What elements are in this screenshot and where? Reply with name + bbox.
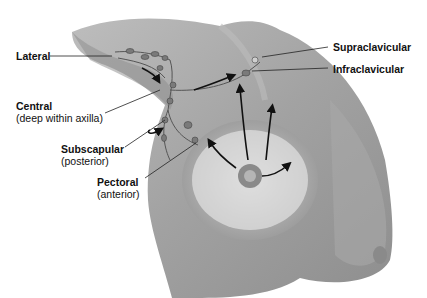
label-infraclavicular: Infraclavicular xyxy=(333,63,404,75)
label-pectoral: Pectoral (anterior) xyxy=(97,176,140,200)
label-lateral-title: Lateral xyxy=(16,50,50,62)
diagram-stage: Lateral Central (deep within axilla) Sub… xyxy=(0,0,427,298)
label-central: Central (deep within axilla) xyxy=(16,100,103,124)
label-subscapular: Subscapular (posterior) xyxy=(61,143,124,167)
label-lateral: Lateral xyxy=(16,50,50,62)
label-pectoral-title: Pectoral xyxy=(97,176,140,188)
label-central-subtitle: (deep within axilla) xyxy=(16,112,103,124)
label-central-title: Central xyxy=(16,100,103,112)
label-subscapular-subtitle: (posterior) xyxy=(61,155,124,167)
label-infraclavicular-title: Infraclavicular xyxy=(333,63,404,75)
label-supraclavicular-title: Supraclavicular xyxy=(333,41,411,53)
label-pectoral-subtitle: (anterior) xyxy=(97,188,140,200)
label-supraclavicular: Supraclavicular xyxy=(333,41,411,53)
nipple xyxy=(244,170,256,182)
label-subscapular-title: Subscapular xyxy=(61,143,124,155)
